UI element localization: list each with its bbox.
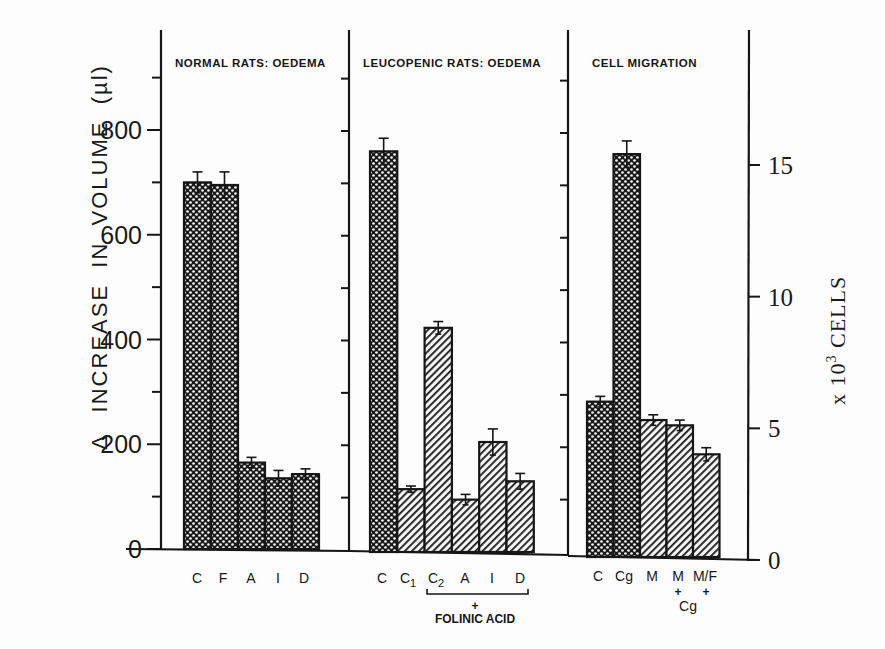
bar-a [238,463,265,549]
right-y-tick-label: 15 [768,152,793,179]
category-labels-normal: C F A I D [192,570,309,586]
cat-label: Cg [615,568,633,584]
cat-label: D [299,570,309,586]
bar-group-left [184,172,319,549]
plus-sign: + [702,585,709,599]
bracket-plus: + [471,599,478,613]
right-axis-ticks: 051015 [749,152,793,574]
category-labels-leucopenic: C C1 C2 A I D + FOLINIC ACID [377,570,528,626]
right-axis-title-prefix: x 10 [825,363,850,406]
bar-m-f-cg [693,454,720,557]
y-tick-label: 0 [128,535,142,563]
left-axis-title: Δ INCREASE IN VOLUME (µl) [87,64,112,450]
cat-label: C [593,568,603,584]
bar-f [211,185,238,549]
right-axis-title-suffix: CELLS [825,276,850,355]
cat-label: M/F [693,568,717,584]
bar-m [640,420,667,557]
cat-label: C [377,570,387,586]
folinic-bracket [427,589,528,594]
bar-i [479,442,506,552]
cat-label: A [246,570,256,586]
bar-c2 [425,328,452,552]
cat-label: C2 [428,570,444,589]
cat-label: D [515,570,525,586]
delta-symbol: Δ [87,435,112,450]
cg-note: Cg [679,598,697,614]
bar-c [370,151,397,552]
bar-c [587,402,614,557]
cat-label: C [192,570,202,586]
bar-d [292,474,319,549]
bar-group-middle [370,138,534,552]
bars [184,138,720,557]
cat-label: A [460,570,470,586]
bar-i [265,478,292,549]
bar-group-right [587,141,720,557]
bar-m-cg [667,425,694,557]
category-labels-migration: C Cg M M M/F + + Cg [593,568,717,614]
svg-text:x 103 CELLS: x 103 CELLS [824,276,850,405]
cat-label: F [219,570,228,586]
cat-label: I [276,570,280,586]
right-y-tick-label: 5 [768,415,781,442]
bar-d [507,481,534,552]
folinic-acid-note: FOLINIC ACID [435,612,516,626]
cat-label: M [672,568,684,584]
panel-title-leucopenic: LEUCOPENIC RATS: OEDEMA [363,57,541,69]
right-y-axis [748,30,749,561]
bar-cg [614,154,641,557]
right-axis-title: x 103 CELLS [824,276,850,405]
bar-a [452,500,479,552]
panel-title-normal: NORMAL RATS: OEDEMA [175,57,326,69]
right-y-tick-label: 10 [768,284,793,311]
bar-c1 [397,489,424,552]
figure: 0200400600800 051015 NORMAL RATS: OEDEMA… [0,0,885,649]
bar-c [184,182,211,549]
right-axis-title-sup: 3 [824,355,839,363]
panel-title-migration: CELL MIGRATION [592,57,697,69]
cat-label: I [490,570,494,586]
plus-sign: + [674,585,681,599]
cat-label: C1 [400,570,416,589]
cat-label: M [646,568,658,584]
svg-text:Δ INCREASE IN VOLUME: Δ INCREASE IN VOLUME (µl) [87,64,112,450]
left-axis-title-text: INCREASE IN VOLUME (µl) [87,64,112,412]
right-y-tick-label: 0 [768,547,781,574]
